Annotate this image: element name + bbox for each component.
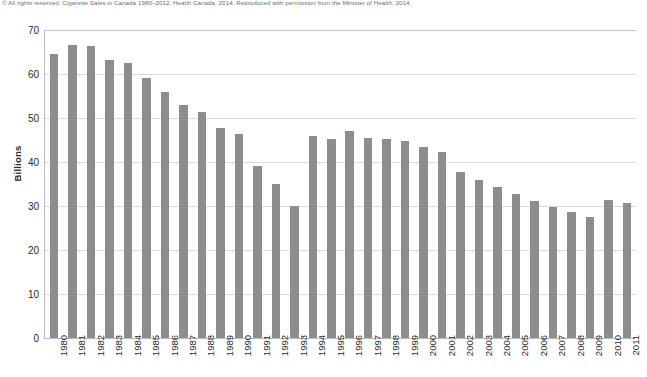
bar-1988 (198, 112, 207, 338)
bar-1989 (216, 128, 225, 338)
x-tick-label-1993: 1993 (298, 335, 309, 375)
bar-2010 (604, 200, 613, 338)
bar-2001 (438, 152, 447, 338)
bar-2004 (493, 187, 502, 338)
x-tick-label-2006: 2006 (538, 335, 549, 375)
x-tick-label-2009: 2009 (593, 335, 604, 375)
x-tick-label-1980: 1980 (58, 335, 69, 375)
bar-1980 (50, 54, 59, 338)
x-tick-label-1995: 1995 (335, 335, 346, 375)
bar-series (45, 30, 635, 338)
chart-page: © All rights reserved. Cigarette Sales i… (0, 0, 647, 377)
bar-2000 (419, 147, 428, 338)
x-tick-label-1994: 1994 (316, 335, 327, 375)
x-tick-label-1987: 1987 (187, 335, 198, 375)
bar-1987 (179, 105, 188, 338)
bar-1997 (364, 138, 373, 338)
x-tick-label-1989: 1989 (224, 335, 235, 375)
y-tick-label-0: 0 (33, 333, 39, 344)
bar-1999 (401, 141, 410, 338)
x-tick-label-1990: 1990 (242, 335, 253, 375)
bar-2007 (549, 207, 558, 338)
x-tick-label-2005: 2005 (519, 335, 530, 375)
x-tick-label-1983: 1983 (113, 335, 124, 375)
bar-2011 (623, 203, 632, 338)
y-tick-label-70: 70 (28, 25, 39, 36)
x-tick-label-1981: 1981 (76, 335, 87, 375)
y-tick-label-50: 50 (28, 113, 39, 124)
bar-2005 (512, 194, 521, 338)
bar-1984 (124, 63, 133, 338)
bar-1982 (87, 46, 96, 338)
y-tick-label-10: 10 (28, 289, 39, 300)
x-tick-label-2002: 2002 (464, 335, 475, 375)
x-tick-label-2003: 2003 (483, 335, 494, 375)
bar-2002 (456, 172, 465, 338)
x-tick-label-1985: 1985 (150, 335, 161, 375)
bar-2003 (475, 180, 484, 338)
x-tick-label-2010: 2010 (612, 335, 623, 375)
x-tick-label-1999: 1999 (409, 335, 420, 375)
bar-1995 (327, 139, 336, 338)
x-tick-label-1991: 1991 (261, 335, 272, 375)
x-tick-label-1988: 1988 (205, 335, 216, 375)
x-tick-label-2004: 2004 (501, 335, 512, 375)
x-tick-label-1992: 1992 (279, 335, 290, 375)
x-tick-label-2001: 2001 (446, 335, 457, 375)
x-tick-label-1984: 1984 (132, 335, 143, 375)
bar-1991 (253, 166, 262, 338)
y-tick-label-20: 20 (28, 245, 39, 256)
x-tick-label-1996: 1996 (353, 335, 364, 375)
y-axis-title: Billions (12, 119, 23, 209)
bar-1998 (382, 139, 391, 338)
bar-1994 (309, 136, 318, 338)
bar-2008 (567, 212, 576, 338)
bar-1983 (105, 60, 114, 338)
x-tick-label-2000: 2000 (427, 335, 438, 375)
x-tick-label-1998: 1998 (390, 335, 401, 375)
plot-area (44, 30, 635, 338)
x-tick-label-1986: 1986 (169, 335, 180, 375)
x-tick-label-2008: 2008 (575, 335, 586, 375)
y-tick-label-40: 40 (28, 157, 39, 168)
bar-2006 (530, 201, 539, 338)
y-tick-label-30: 30 (28, 201, 39, 212)
bar-1986 (161, 92, 170, 338)
bar-2009 (586, 217, 595, 338)
bar-1993 (290, 206, 299, 338)
bar-1996 (345, 131, 354, 338)
x-tick-label-2011: 2011 (630, 335, 641, 375)
x-tick-label-1982: 1982 (95, 335, 106, 375)
copyright-credit-line: © All rights reserved. Cigarette Sales i… (2, 0, 647, 7)
bar-1992 (272, 184, 281, 338)
x-tick-label-2007: 2007 (556, 335, 567, 375)
bar-1985 (142, 78, 151, 338)
x-axis-tick-labels: 1980198119821983198419851986198719881989… (44, 340, 635, 377)
x-tick-label-1997: 1997 (372, 335, 383, 375)
bar-1990 (235, 134, 244, 338)
bar-1981 (68, 45, 77, 338)
y-tick-label-60: 60 (28, 69, 39, 80)
